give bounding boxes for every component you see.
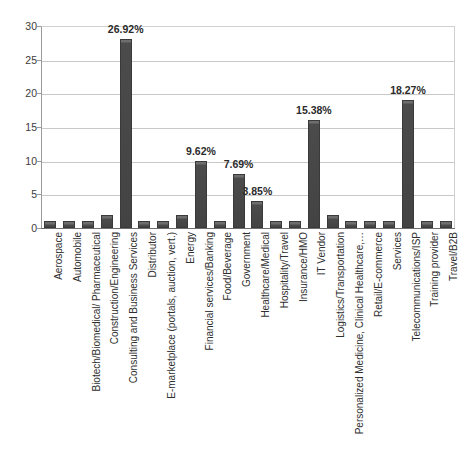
bar[interactable] [364, 221, 376, 228]
y-tick-label: 20 [3, 88, 37, 98]
x-category-slot: Energy [173, 230, 192, 450]
y-tick-label: 10 [3, 156, 37, 166]
x-category-slot: Construction/Engineering [97, 230, 116, 450]
bar[interactable] [251, 201, 263, 228]
bars-layer: 26.92%9.62%7.69%3.85%15.38%18.27% [41, 26, 455, 228]
y-tick-label: 5 [3, 189, 37, 199]
bar[interactable] [214, 221, 226, 228]
bar-slot: 26.92% [116, 26, 135, 228]
bar-slot [154, 26, 173, 228]
x-category-slot: Personalized Medicine, Clinical Healthca… [342, 230, 361, 450]
x-category-slot: Services [380, 230, 399, 450]
bar[interactable] [120, 39, 132, 228]
x-axis-baseline [41, 228, 455, 229]
bar-slot [361, 26, 380, 228]
bar[interactable] [289, 221, 301, 228]
x-category-slot: Government [229, 230, 248, 450]
x-category-slot: Distributor [135, 230, 154, 450]
x-category-slot: IT Vendor [304, 230, 323, 450]
bar-slot [417, 26, 436, 228]
bar-slot [97, 26, 116, 228]
bar-slot: 18.27% [399, 26, 418, 228]
x-category-slot: Food/Beverage [210, 230, 229, 450]
bar-slot [436, 26, 455, 228]
bar-slot [342, 26, 361, 228]
x-category-slot: Logistics/Transportation [323, 230, 342, 450]
bar-slot [210, 26, 229, 228]
bar-slot [41, 26, 60, 228]
bar-slot [267, 26, 286, 228]
x-category-slot: Hospitality/Travel [267, 230, 286, 450]
bar-chart: 302520151050 26.92%9.62%7.69%3.85%15.38%… [0, 0, 464, 452]
x-category-slot: Biotech/Biomedical/ Pharmaceutical [79, 230, 98, 450]
bar[interactable] [101, 215, 113, 228]
bar[interactable] [402, 100, 414, 228]
x-category-slot: Aerospace [41, 230, 60, 450]
bar[interactable] [383, 221, 395, 228]
bar[interactable] [44, 221, 56, 228]
x-category-slot: Healthcare/Medical [248, 230, 267, 450]
x-category-slot: Automobile [60, 230, 79, 450]
bar-slot [173, 26, 192, 228]
bar-slot [135, 26, 154, 228]
bar-slot: 15.38% [304, 26, 323, 228]
x-category-slot: Financial services/Banking [192, 230, 211, 450]
bar-slot: 7.69% [229, 26, 248, 228]
bar[interactable] [195, 161, 207, 228]
bar-slot [380, 26, 399, 228]
bar[interactable] [327, 215, 339, 228]
y-tick-label: 25 [3, 55, 37, 65]
x-category-slot: Travel/B2B [436, 230, 455, 450]
x-category-slot: Retail/E-commerce [361, 230, 380, 450]
bar-slot [79, 26, 98, 228]
y-tick-label: 30 [3, 21, 37, 31]
bar[interactable] [270, 221, 282, 228]
x-category-label: Travel/B2B [449, 232, 459, 281]
x-category-slot: Consulting and Business Services [116, 230, 135, 450]
x-category-slot: Insurance/HMO [286, 230, 305, 450]
bar[interactable] [63, 221, 75, 228]
x-axis-labels: AerospaceAutomobileBiotech/Biomedical/ P… [41, 230, 455, 450]
y-tick-label: 15 [3, 122, 37, 132]
x-category-slot: Telecommunications/ISP [399, 230, 418, 450]
x-category-slot: Training provider [417, 230, 436, 450]
bar[interactable] [440, 221, 452, 228]
y-tick-label: 0 [3, 223, 37, 233]
bar-slot [60, 26, 79, 228]
bar-slot: 3.85% [248, 26, 267, 228]
bar[interactable] [345, 221, 357, 228]
bar-slot [286, 26, 305, 228]
bar[interactable] [82, 221, 94, 228]
bar[interactable] [233, 174, 245, 228]
bar-slot: 9.62% [192, 26, 211, 228]
y-axis: 302520151050 [0, 26, 37, 228]
x-category-slot: E-marketplace (portals, auction, vert.) [154, 230, 173, 450]
bar[interactable] [138, 221, 150, 228]
bar[interactable] [157, 221, 169, 228]
bar[interactable] [421, 221, 433, 228]
bar[interactable] [176, 215, 188, 228]
bar-slot [323, 26, 342, 228]
bar[interactable] [308, 120, 320, 228]
